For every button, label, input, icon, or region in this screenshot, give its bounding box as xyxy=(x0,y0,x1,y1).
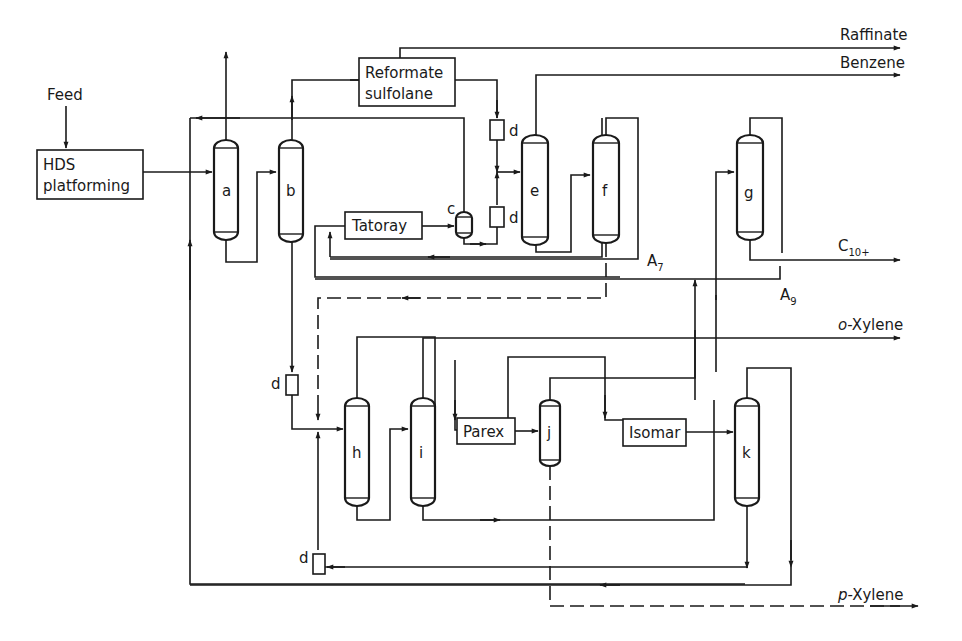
column-f-label: f xyxy=(602,182,608,200)
column-j-label: j xyxy=(546,424,551,442)
benzene-stream xyxy=(536,75,900,135)
column-k: k xyxy=(735,398,759,506)
a7-label: A7 xyxy=(647,252,664,273)
f-bottoms-to-h xyxy=(318,243,606,405)
hds-platforming-unit: HDS platforming xyxy=(37,150,143,199)
c10-label: C10+ xyxy=(838,237,870,258)
column-i-label: i xyxy=(419,444,423,462)
reformate-to-d-upper xyxy=(455,80,497,118)
drum-d-upper-label: d xyxy=(509,122,519,140)
drum-d-upper: d xyxy=(490,120,519,140)
column-e-label: e xyxy=(530,182,539,200)
column-k-label: k xyxy=(742,444,751,462)
column-a: a xyxy=(214,140,238,240)
parex-label: Parex xyxy=(463,423,504,441)
raffinate-label: Raffinate xyxy=(840,26,908,44)
column-b-label: b xyxy=(286,182,296,200)
drum-d-mid-label: d xyxy=(271,375,281,393)
k-overhead-recycle xyxy=(190,567,791,585)
isomar-label: Isomar xyxy=(629,424,681,442)
oxylene-label: o-Xylene xyxy=(838,316,903,334)
a9-label: A9 xyxy=(780,286,797,307)
drum-d-bottom-label: d xyxy=(299,549,309,567)
parex-unit: Parex xyxy=(457,418,515,444)
process-flow-diagram: Feed HDS platforming a b Reformate sulfo… xyxy=(0,0,962,641)
column-c-label: c xyxy=(447,200,455,218)
benzene-label: Benzene xyxy=(840,54,905,72)
column-i: i xyxy=(411,398,435,506)
drum-d-mid: d xyxy=(271,375,298,395)
column-g-label: g xyxy=(744,184,754,202)
parex-raffinate-to-isomar xyxy=(508,357,625,420)
column-f: f xyxy=(593,135,619,243)
tatoray-label: Tatoray xyxy=(351,217,407,235)
raffinate-stream xyxy=(400,48,900,58)
reformate-label: Reformate xyxy=(365,64,443,82)
k-bottoms-to-d xyxy=(325,567,747,568)
pxylene-label: p-Xylene xyxy=(837,586,903,604)
column-c: c xyxy=(447,200,472,238)
column-h-label: h xyxy=(352,444,362,462)
drum-d-lower-label: d xyxy=(509,209,519,227)
recycle-loop-left xyxy=(190,118,745,584)
tatoray-unit: Tatoray xyxy=(345,212,422,239)
column-g: g xyxy=(737,135,763,240)
drum-d-lower: d xyxy=(490,207,519,227)
reformate-sulfolane-unit: Reformate sulfolane xyxy=(359,58,455,106)
drum-d-bottom: d xyxy=(299,549,325,574)
column-j: j xyxy=(540,400,560,466)
platforming-label: platforming xyxy=(43,177,130,195)
feed-to-g xyxy=(716,172,734,372)
isomar-unit: Isomar xyxy=(623,419,686,446)
column-h: h xyxy=(345,398,369,506)
column-b: b xyxy=(279,140,303,242)
c10-stream xyxy=(750,240,900,260)
column-a-label: a xyxy=(222,182,231,200)
j-overhead xyxy=(550,330,695,400)
oxylene-stream xyxy=(423,338,900,398)
hds-label: HDS xyxy=(43,156,75,174)
column-e: e xyxy=(522,135,548,245)
feed-label: Feed xyxy=(47,86,83,104)
sulfolane-label: sulfolane xyxy=(365,85,433,103)
